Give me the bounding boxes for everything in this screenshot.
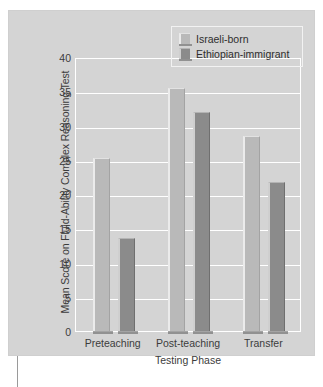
y-axis-tick-label: 5	[45, 293, 71, 303]
y-axis-tick-label: 25	[45, 156, 71, 166]
chart-legend: Israeli-born Ethiopian-immigrant	[171, 26, 303, 67]
figure-canvas: Mean Score on Fluid-Ability Complex Reas…	[0, 0, 323, 387]
y-axis-tick-label: 15	[45, 224, 71, 234]
y-axis-tick-label: 40	[45, 53, 71, 63]
bar-post-teaching-ethiopian-immigrant	[193, 112, 210, 331]
page-tick-mark	[17, 356, 18, 387]
gridline	[76, 128, 300, 129]
x-axis-tick-label: Transfer	[226, 337, 301, 349]
legend-label-israeli-born: Israeli-born	[196, 33, 249, 45]
bar-preteaching-israeli-born	[93, 158, 110, 331]
chart-panel: Mean Score on Fluid-Ability Complex Reas…	[8, 10, 315, 356]
y-axis-tick-label: 35	[45, 87, 71, 97]
gridline	[76, 93, 300, 94]
bar-transfer-israeli-born	[243, 136, 260, 331]
bar-post-teaching-israeli-born	[168, 88, 185, 331]
legend-label-ethiopian-immigrant: Ethiopian-immigrant	[196, 48, 289, 60]
legend-swatch-icon-israeli-born	[179, 33, 190, 44]
x-axis-title: Testing Phase	[75, 354, 301, 366]
bar-transfer-ethiopian-immigrant	[268, 182, 285, 331]
x-axis-tick-label: Preteaching	[75, 337, 150, 349]
y-axis-tick-label: 30	[45, 122, 71, 132]
y-axis-tick-labels: 0510152025303540	[43, 58, 71, 332]
bar-preteaching-ethiopian-immigrant	[118, 238, 135, 331]
y-axis-tick-label: 10	[45, 259, 71, 269]
legend-item-ethiopian-immigrant: Ethiopian-immigrant	[179, 46, 296, 61]
x-axis-tick-labels: PreteachingPost-teachingTransfer	[75, 337, 301, 351]
plot-area	[75, 58, 301, 332]
legend-item-israeli-born: Israeli-born	[179, 31, 296, 46]
y-axis-tick-label: 0	[45, 327, 71, 337]
legend-swatch-icon-ethiopian-immigrant	[179, 48, 190, 59]
x-axis-tick-label: Post-teaching	[150, 337, 225, 349]
y-axis-tick-label: 20	[45, 190, 71, 200]
